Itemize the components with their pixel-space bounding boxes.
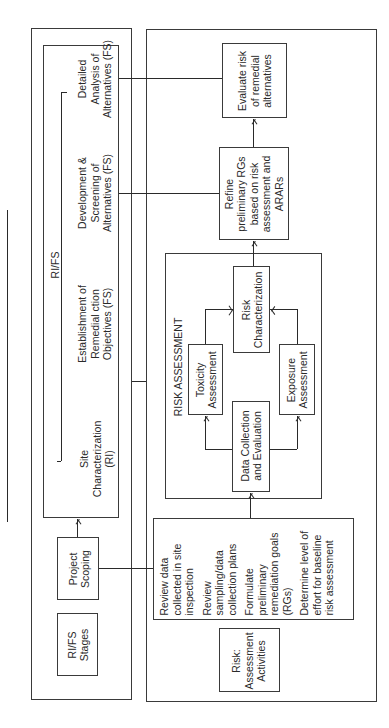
connector-dc-to-toxicity xyxy=(205,416,206,449)
stage-remedial-objectives: Establishment of Remedial ction Objectiv… xyxy=(74,269,116,379)
activity-review-data: Review data collected in site inspection xyxy=(158,544,196,616)
connector-dc-right xyxy=(270,449,297,450)
project-scoping-label: Project Scoping xyxy=(64,538,94,601)
activity-review-plans: Review sampling/data collection plans xyxy=(200,544,238,616)
rifs-group-label: RI/FS xyxy=(48,240,62,290)
connector-exposure-up xyxy=(297,309,298,344)
stage-development-screening: Development & Screening of Alternatives … xyxy=(74,138,116,248)
connector-toxicity-right xyxy=(205,309,233,310)
activity-formulate-rgs: Formulate preliminary remediation goals … xyxy=(243,533,293,616)
toxicity-label: Toxicity Assessment xyxy=(191,345,221,416)
refine-rgs-label: Refine preliminary RGs based on risk ass… xyxy=(222,149,286,239)
margin-rule xyxy=(7,210,8,522)
rifs-stages-label: RI/FS Stages xyxy=(63,614,93,677)
rifs-bracket-top xyxy=(61,92,67,93)
stage-detailed-analysis: Detailed Analysis of Alternatives (FS) xyxy=(74,24,116,134)
connector-dc-to-exposure xyxy=(297,416,298,449)
link-scoping-to-activities xyxy=(99,568,153,569)
scoping-activities-list: Review data collected in site inspection… xyxy=(154,518,355,620)
data-collection-label: Data Collection and Evaluation xyxy=(236,401,266,492)
exposure-label: Exposure Assessment xyxy=(282,345,312,416)
connector-exposure-left xyxy=(270,309,297,310)
connector-toxicity-up xyxy=(205,309,206,344)
risk-characterization-label: Risk Characterization xyxy=(237,267,267,354)
link-detailed-to-evaluate xyxy=(119,78,222,79)
link-objectives-to-risk xyxy=(132,381,146,382)
stage-site-characterization: Site Characterization (RI) xyxy=(76,404,118,514)
evaluate-risk-label: Evaluate risk of remedial alternatives xyxy=(238,44,272,119)
link-development-to-refine xyxy=(119,193,219,194)
risk-assessment-title: RISK ASSESSMENT xyxy=(171,307,185,427)
risk-activities-label: Risk: Assessment Activities xyxy=(230,629,268,693)
activity-determine-effort: Determine level of effort for baseline r… xyxy=(298,531,336,616)
connector-dc-left xyxy=(205,449,232,450)
rifs-bracket-bottom xyxy=(57,461,61,462)
